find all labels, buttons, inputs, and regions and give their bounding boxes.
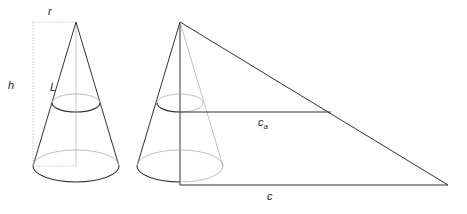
right-base-front-right xyxy=(180,166,223,182)
left-base-front xyxy=(33,166,119,182)
cone-diagram: r h L ca c xyxy=(0,0,467,214)
radius-label: r xyxy=(48,6,52,17)
slant-label: L xyxy=(50,82,56,93)
right-base-front-left xyxy=(137,166,180,182)
right-mid-front-right xyxy=(180,103,203,112)
right-cone xyxy=(137,22,223,185)
diagram-drawing xyxy=(0,0,467,214)
right-mid-front-left xyxy=(157,103,180,112)
partial-circumference-subscript: a xyxy=(264,122,268,131)
left-cone xyxy=(33,22,119,182)
circumference-label: c xyxy=(267,191,273,202)
partial-circumference-label: ca xyxy=(258,117,268,131)
height-label: h xyxy=(8,80,14,91)
